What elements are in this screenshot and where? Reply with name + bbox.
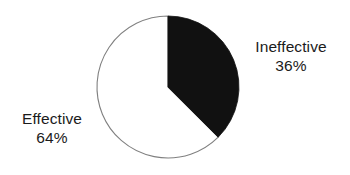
slice-label-ineffective: Ineffective 36% — [241, 37, 341, 75]
pie-chart-graphic — [0, 0, 350, 175]
slice-label-effective-value: 64% — [8, 128, 96, 147]
pie-chart-figure: Ineffective 36% Effective 64% — [0, 0, 350, 175]
slice-label-effective-name: Effective — [8, 109, 96, 128]
slice-label-effective: Effective 64% — [8, 109, 96, 147]
slice-label-ineffective-value: 36% — [241, 56, 341, 75]
slice-label-ineffective-name: Ineffective — [241, 37, 341, 56]
